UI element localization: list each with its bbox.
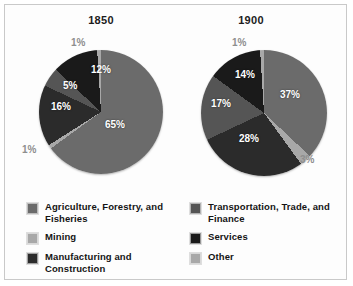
legend-label-manufacturing: Manufacturing and Construction bbox=[45, 251, 182, 274]
slice-label-agriculture-1850: 65% bbox=[105, 119, 125, 130]
legend-item-manufacturing[interactable]: Manufacturing and Construction bbox=[27, 251, 182, 274]
slice-label-other-1900: 1% bbox=[232, 37, 246, 48]
slice-label-manufacturing-1900: 28% bbox=[239, 133, 259, 144]
slice-label-services-1850: 12% bbox=[91, 64, 111, 75]
legend-label-other: Other bbox=[208, 251, 234, 263]
pie-chart-1850: 1% 12% 5% 16% 1% 65% bbox=[27, 41, 175, 191]
legend-label-transportation: Transportation, Trade, and Finance bbox=[208, 201, 350, 224]
legend-label-agriculture: Agriculture, Forestry, and Fisheries bbox=[45, 201, 182, 224]
legend-item-mining[interactable]: Mining bbox=[27, 231, 182, 244]
chart-titles: 1850 1900 bbox=[5, 14, 346, 32]
chart-title-1900: 1900 bbox=[191, 14, 311, 26]
slice-label-agriculture-1900: 37% bbox=[280, 89, 300, 100]
legend-label-services: Services bbox=[208, 231, 248, 243]
slice-label-mining-1900: 3% bbox=[300, 154, 314, 165]
legend-item-agriculture[interactable]: Agriculture, Forestry, and Fisheries bbox=[27, 201, 182, 224]
legend-item-other[interactable]: Other bbox=[190, 251, 350, 264]
pie-chart-1900: 1% 14% 17% 28% 3% 37% bbox=[187, 41, 339, 193]
legend-swatch-mining bbox=[27, 233, 38, 244]
chart-panel: 1850 1900 1% 12% 5% 16% 1% 65% 1% 14% 17… bbox=[4, 4, 347, 280]
legend-item-services[interactable]: Services bbox=[190, 231, 350, 244]
legend-swatch-transportation bbox=[190, 203, 201, 214]
slice-label-mining-1850: 1% bbox=[22, 144, 36, 155]
slice-label-transportation-1850: 5% bbox=[63, 80, 77, 91]
slice-label-services-1900: 14% bbox=[235, 69, 255, 80]
legend-swatch-other bbox=[190, 253, 201, 264]
slice-label-transportation-1900: 17% bbox=[211, 98, 231, 109]
legend-label-mining: Mining bbox=[45, 231, 76, 243]
slice-label-manufacturing-1850: 16% bbox=[51, 101, 71, 112]
legend-swatch-services bbox=[190, 233, 201, 244]
legend-swatch-agriculture bbox=[27, 203, 38, 214]
slice-label-other-1850: 1% bbox=[71, 37, 85, 48]
legend-swatch-manufacturing bbox=[27, 253, 38, 264]
legend-column-right: Transportation, Trade, and Finance Servi… bbox=[190, 201, 350, 271]
legend-item-transportation[interactable]: Transportation, Trade, and Finance bbox=[190, 201, 350, 224]
legend-column-left: Agriculture, Forestry, and Fisheries Min… bbox=[27, 201, 182, 281]
chart-title-1850: 1850 bbox=[41, 14, 161, 26]
